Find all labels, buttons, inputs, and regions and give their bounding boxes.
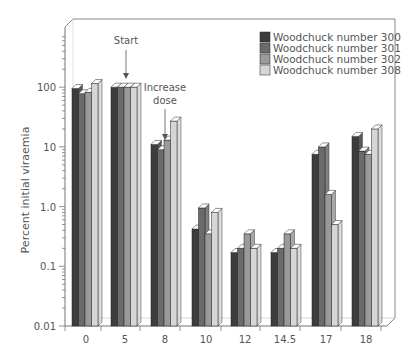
- bar: [319, 147, 326, 326]
- legend-swatch: [260, 43, 270, 53]
- bar-group-8: [151, 117, 181, 326]
- bar: [171, 121, 178, 326]
- x-tick-label: 14.5: [274, 334, 296, 345]
- bar: [192, 229, 199, 326]
- bar-group-14.5: [271, 230, 301, 326]
- annotation-increase-label-1: Increase: [144, 82, 186, 93]
- bar: [238, 248, 245, 326]
- bar: [271, 253, 278, 326]
- legend-swatch: [260, 54, 270, 64]
- bar: [332, 225, 339, 326]
- bar: [131, 87, 138, 326]
- bar: [291, 248, 298, 326]
- bar: [352, 136, 359, 326]
- y-tick-label: 0.1: [40, 261, 56, 272]
- legend-label: Woodchuck number 308: [273, 64, 401, 76]
- bar: [231, 253, 238, 326]
- bar: [92, 84, 99, 326]
- bar: [85, 92, 92, 326]
- bar-group-18: [352, 125, 382, 326]
- bar: [205, 234, 212, 326]
- x-tick-label: 10: [200, 334, 213, 345]
- bar: [199, 208, 206, 326]
- bar: [151, 144, 158, 326]
- legend-item: Woodchuck number 308: [260, 64, 401, 76]
- bar: [372, 129, 379, 326]
- bar: [359, 151, 366, 326]
- x-tick-label: 18: [360, 334, 373, 345]
- bar: [278, 248, 285, 326]
- y-axis-label: Percent initial viraemia: [19, 127, 32, 254]
- annotation-start: Start: [114, 35, 139, 79]
- bar-chart: 0.010.11.010100 058101214.51718 Percent …: [0, 0, 416, 360]
- legend-swatch: [260, 65, 270, 75]
- bar: [312, 154, 319, 326]
- bar: [158, 150, 165, 326]
- x-tick-label: 12: [239, 334, 252, 345]
- bar: [79, 94, 86, 326]
- x-tick-label: 8: [162, 334, 168, 345]
- bar: [111, 87, 118, 326]
- bar: [212, 212, 219, 326]
- arrow-down-icon: [123, 73, 129, 79]
- bar-group-12: [231, 230, 261, 326]
- bar-groups: [72, 80, 382, 326]
- legend-swatch: [260, 32, 270, 42]
- y-tick-label: 1.0: [40, 202, 56, 213]
- bar: [72, 89, 79, 326]
- bar: [164, 140, 171, 326]
- y-tick-label: 10: [43, 142, 56, 153]
- bar: [118, 87, 125, 326]
- bar: [284, 234, 291, 326]
- bar: [124, 87, 131, 326]
- y-tick-label: 0.01: [34, 321, 56, 332]
- y-tick-label: 100: [37, 82, 56, 93]
- bar-group-5: [111, 83, 141, 326]
- bar-group-10: [192, 204, 222, 326]
- legend: Woodchuck number 300Woodchuck number 301…: [260, 31, 401, 76]
- y-axis: 0.010.11.010100: [34, 27, 65, 332]
- bar-group-17: [312, 143, 342, 326]
- annotation-increase-label-2: dose: [153, 95, 177, 106]
- bar: [251, 248, 258, 326]
- bar-group-0: [72, 80, 102, 326]
- bar: [244, 234, 251, 326]
- bar: [365, 154, 372, 326]
- bar: [325, 194, 332, 326]
- x-axis: 058101214.51718: [65, 326, 387, 345]
- annotation-start-label: Start: [114, 35, 139, 46]
- x-tick-label: 5: [122, 334, 128, 345]
- x-tick-label: 17: [320, 334, 333, 345]
- x-tick-label: 0: [83, 334, 89, 345]
